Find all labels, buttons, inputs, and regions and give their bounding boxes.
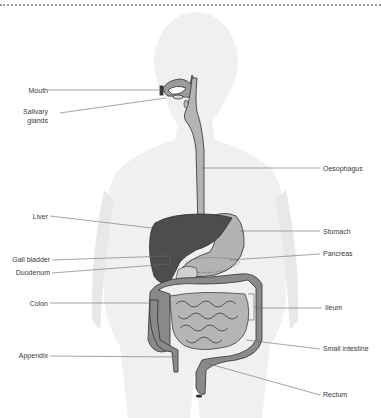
label-mouth: Mouth bbox=[8, 87, 48, 95]
label-appendix: Appendix bbox=[4, 352, 48, 360]
small-intestine-organ bbox=[170, 292, 249, 349]
label-small-intestine: Small intestine bbox=[323, 345, 369, 353]
label-ileum: Ileum bbox=[325, 304, 342, 312]
digestive-system-figure bbox=[0, 0, 381, 418]
label-pancreas: Pancreas bbox=[323, 250, 353, 258]
label-liver: Liver bbox=[8, 213, 48, 221]
label-colon: Colon bbox=[4, 300, 48, 308]
label-oesophagus: Oesophagus bbox=[323, 165, 363, 173]
label-gall-bladder: Gall bladder bbox=[4, 256, 50, 264]
label-salivary-glands-line1: Salivary bbox=[8, 108, 48, 116]
rectum-end bbox=[196, 395, 202, 398]
label-duodenum: Duodenum bbox=[4, 269, 50, 277]
label-stomach: Stomach bbox=[323, 228, 351, 236]
label-salivary-glands-line2: glands bbox=[8, 117, 48, 125]
salivary-gland-organ bbox=[184, 100, 188, 108]
label-rectum: Rectum bbox=[323, 391, 347, 399]
